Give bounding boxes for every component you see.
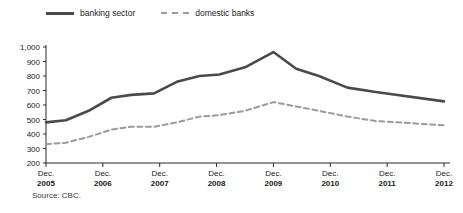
x-tick-month-label: Dec. bbox=[151, 169, 167, 178]
y-tick-label: 1,000 bbox=[20, 43, 41, 52]
x-tick-year-label: 2008 bbox=[208, 179, 226, 188]
x-tick-month-label: Dec. bbox=[322, 169, 338, 178]
data-line-banking-sector bbox=[46, 52, 444, 122]
x-tick-year-label: 2011 bbox=[378, 179, 396, 188]
x-tick-year-label: 2005 bbox=[37, 179, 55, 188]
x-tick-year-label: 2012 bbox=[435, 179, 453, 188]
x-tick-year-label: 2007 bbox=[151, 179, 169, 188]
y-axis: 1,000900800700600500400300200 bbox=[20, 43, 46, 168]
x-tick-month-label: Dec. bbox=[95, 169, 111, 178]
data-series-group bbox=[46, 52, 444, 144]
y-tick-label: 900 bbox=[27, 58, 41, 67]
y-tick-label: 400 bbox=[27, 130, 41, 139]
y-tick-label: 800 bbox=[27, 72, 41, 81]
x-tick-year-label: 2010 bbox=[321, 179, 339, 188]
y-tick-label: 700 bbox=[27, 87, 41, 96]
data-line-domestic-banks bbox=[46, 102, 444, 144]
x-tick-month-label: Dec. bbox=[265, 169, 281, 178]
x-tick-month-label: Dec. bbox=[379, 169, 395, 178]
x-tick-year-label: 2006 bbox=[94, 179, 112, 188]
x-tick-month-label: Dec. bbox=[38, 169, 54, 178]
x-tick-month-label: Dec. bbox=[436, 169, 452, 178]
y-tick-label: 200 bbox=[27, 159, 41, 168]
x-tick-year-label: 2009 bbox=[265, 179, 283, 188]
y-tick-label: 500 bbox=[27, 116, 41, 125]
y-tick-label: 600 bbox=[27, 101, 41, 110]
y-tick-label: 300 bbox=[27, 145, 41, 154]
chart-container: banking sector domestic banks 1,00090080… bbox=[0, 0, 463, 213]
source-note: Source: CBC. bbox=[32, 191, 81, 200]
x-axis: Dec.2005Dec.2006Dec.2007Dec.2008Dec.2009… bbox=[37, 163, 453, 188]
x-tick-month-label: Dec. bbox=[208, 169, 224, 178]
chart-plot: 1,000900800700600500400300200 Dec.2005De… bbox=[0, 0, 463, 213]
